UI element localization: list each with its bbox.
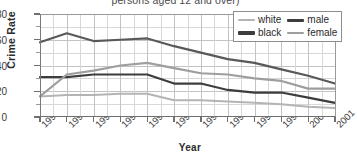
legend-label-male: male xyxy=(307,14,329,26)
legend-item-white[interactable]: white xyxy=(238,14,281,26)
legend-label-black: black xyxy=(258,27,281,39)
legend-swatch-white xyxy=(238,19,255,21)
legend-label-female: female xyxy=(307,27,337,39)
x-axis-title: Year xyxy=(40,142,340,153)
chart-legend: whitemaleblackfemale xyxy=(233,11,342,42)
chart-title: persons aged 12 and over) xyxy=(0,0,351,6)
y-tick-label-60: 60 xyxy=(0,34,7,45)
legend-label-white: white xyxy=(258,14,281,26)
series-line-male xyxy=(40,75,335,103)
legend-swatch-female xyxy=(287,32,304,34)
series-line-white xyxy=(40,94,335,108)
legend-swatch-male xyxy=(287,19,304,22)
y-tick-label-80: 80 xyxy=(0,9,7,20)
legend-row-1: blackfemale xyxy=(238,27,337,39)
y-tick-label-40: 40 xyxy=(0,60,7,71)
legend-item-black[interactable]: black xyxy=(238,27,281,39)
y-tick-label-0: 0 xyxy=(0,112,7,123)
legend-row-0: whitemale xyxy=(238,14,337,26)
legend-swatch-black xyxy=(238,31,255,34)
legend-item-female[interactable]: female xyxy=(287,27,337,39)
series-line-female xyxy=(40,63,335,96)
y-tick-label-20: 20 xyxy=(0,86,7,97)
x-tick-label-2001: 2001 xyxy=(334,107,357,130)
legend-item-male[interactable]: male xyxy=(287,14,329,26)
